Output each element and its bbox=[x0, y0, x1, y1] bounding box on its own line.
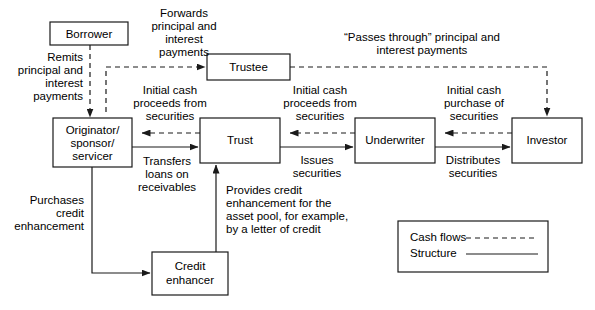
label-purchases-credit-enhancement-line3: enhancement bbox=[14, 220, 84, 232]
label-initial-cash-purchase-line3: securities bbox=[450, 110, 499, 122]
label-remits-payments-line4: payments bbox=[33, 90, 83, 102]
node-trustee[interactable]: Trustee bbox=[207, 54, 290, 80]
label-issues-securities-line2: securities bbox=[293, 167, 342, 179]
label-purchases-credit-enhancement-line1: Purchases bbox=[30, 194, 85, 206]
label-remits-payments-line3: interest bbox=[45, 77, 84, 89]
node-credit-enhancer-label-line2: enhancer bbox=[166, 274, 214, 286]
label-transfers-loans-line3: receivables bbox=[138, 181, 196, 193]
node-originator[interactable]: Originator/ sponsor/ servicer bbox=[53, 118, 132, 167]
label-provides-credit-enhancement: Provides credit enhancement for the asse… bbox=[226, 184, 348, 235]
label-provides-credit-enhancement-line2: enhancement for the bbox=[226, 197, 332, 209]
label-issues-securities-line1: Issues bbox=[300, 154, 333, 166]
label-remits-payments-line1: Remits bbox=[47, 51, 83, 63]
label-purchases-credit-enhancement-line2: credit bbox=[56, 207, 85, 219]
label-provides-credit-enhancement-line4: by a letter of credit bbox=[226, 223, 321, 235]
label-distributes-securities-line1: Distributes bbox=[446, 154, 501, 166]
node-trustee-label: Trustee bbox=[229, 61, 268, 73]
node-investor[interactable]: Investor bbox=[512, 118, 582, 163]
node-trust-label: Trust bbox=[227, 134, 254, 146]
label-passes-through: “Passes through” principal and interest … bbox=[344, 31, 500, 56]
legend-item-cash-flows-label: Cash flows bbox=[410, 231, 466, 243]
label-remits-payments-line2: principal and bbox=[18, 64, 83, 76]
label-initial-cash-proceeds-left: Initial cash proceeds from securities bbox=[133, 84, 207, 122]
label-transfers-loans-line1: Transfers bbox=[143, 155, 191, 167]
label-provides-credit-enhancement-line3: asset pool, for example, bbox=[226, 210, 348, 222]
securitization-diagram: Borrower Trustee Originator/ sponsor/ se… bbox=[0, 0, 595, 310]
label-passes-through-line2: interest payments bbox=[377, 44, 468, 56]
label-initial-cash-proceeds-right-line2: proceeds from bbox=[283, 97, 357, 109]
node-underwriter[interactable]: Underwriter bbox=[355, 118, 435, 163]
label-forwards-payments-line2: principal and bbox=[151, 20, 216, 32]
label-initial-cash-proceeds-right-line1: Initial cash bbox=[293, 84, 347, 96]
label-distributes-securities-line2: securities bbox=[449, 167, 498, 179]
label-forwards-payments-line3: interest bbox=[165, 33, 204, 45]
label-initial-cash-purchase: Initial cash purchase of securities bbox=[444, 84, 505, 122]
label-passes-through-line1: “Passes through” principal and bbox=[344, 31, 500, 43]
legend: Cash flows Structure bbox=[398, 221, 548, 272]
label-initial-cash-proceeds-left-line3: securities bbox=[146, 110, 195, 122]
label-initial-cash-proceeds-right-line3: securities bbox=[296, 110, 345, 122]
node-credit-enhancer-label-line1: Credit bbox=[175, 260, 206, 272]
legend-item-structure-label: Structure bbox=[410, 247, 457, 259]
node-underwriter-label: Underwriter bbox=[365, 134, 425, 146]
node-investor-label: Investor bbox=[527, 134, 568, 146]
node-originator-label-line2: sponsor/ bbox=[70, 137, 115, 149]
label-transfers-loans-line2: loans on bbox=[145, 168, 188, 180]
label-transfers-loans: Transfers loans on receivables bbox=[138, 155, 196, 193]
label-forwards-payments-line4: payments bbox=[159, 46, 209, 58]
node-originator-label-line3: servicer bbox=[72, 150, 112, 162]
label-initial-cash-proceeds-left-line2: proceeds from bbox=[133, 97, 207, 109]
node-credit-enhancer[interactable]: Credit enhancer bbox=[152, 252, 228, 295]
node-borrower-label: Borrower bbox=[66, 28, 113, 40]
label-initial-cash-purchase-line1: Initial cash bbox=[447, 84, 501, 96]
label-remits-payments: Remits principal and interest payments bbox=[18, 51, 84, 102]
node-borrower[interactable]: Borrower bbox=[50, 22, 128, 45]
label-initial-cash-purchase-line2: purchase of bbox=[444, 97, 505, 109]
node-trust[interactable]: Trust bbox=[200, 118, 280, 163]
diagram-canvas: Borrower Trustee Originator/ sponsor/ se… bbox=[0, 0, 595, 310]
label-initial-cash-proceeds-right: Initial cash proceeds from securities bbox=[283, 84, 357, 122]
label-forwards-payments-line1: Forwards bbox=[160, 7, 208, 19]
node-originator-label-line1: Originator/ bbox=[66, 124, 120, 136]
label-issues-securities: Issues securities bbox=[293, 154, 342, 179]
label-provides-credit-enhancement-line1: Provides credit bbox=[226, 184, 303, 196]
label-initial-cash-proceeds-left-line1: Initial cash bbox=[143, 84, 197, 96]
label-forwards-payments: Forwards principal and interest payments bbox=[151, 7, 216, 58]
label-distributes-securities: Distributes securities bbox=[446, 154, 501, 179]
label-purchases-credit-enhancement: Purchases credit enhancement bbox=[14, 194, 85, 232]
